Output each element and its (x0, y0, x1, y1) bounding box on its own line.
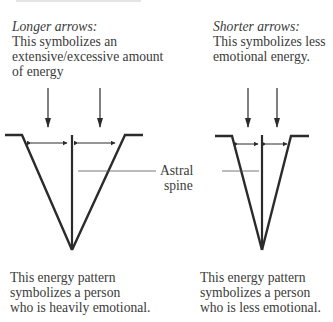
right-down-arrowhead-2 (274, 118, 280, 128)
left-caption-line-3: who is heavily emotional. (10, 300, 150, 315)
left-funnel-left-side (5, 135, 72, 250)
right-down-arrowhead-1 (245, 118, 251, 128)
right-funnel-right-side (262, 136, 309, 250)
left-energy-figure (5, 88, 156, 250)
left-funnel-right-side (72, 135, 143, 250)
astral-spine-label-line-1: Astral (160, 163, 193, 178)
left-down-arrowhead-1 (45, 118, 51, 128)
right-caption-line-1: This energy pattern (200, 270, 305, 285)
right-energy-figure (215, 88, 309, 250)
left-caption-line-1: This energy pattern (10, 270, 115, 285)
right-caption-line-2: symbolizes a person (200, 285, 310, 300)
right-funnel-left-side (215, 136, 262, 250)
astral-spine-label-line-2: spine (164, 178, 193, 193)
left-caption-line-2: symbolizes a person (10, 285, 120, 300)
right-caption-line-3: who is less emotional. (200, 300, 321, 315)
left-down-arrowhead-2 (97, 118, 103, 128)
